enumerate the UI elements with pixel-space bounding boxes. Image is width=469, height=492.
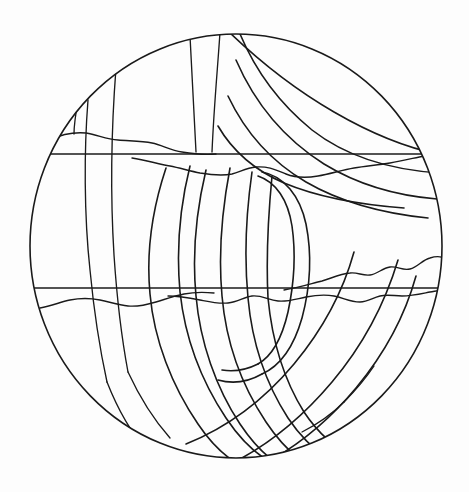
line-art-sphere-drawing (0, 0, 469, 492)
artwork-canvas: Black outline drawing of a sphere crosse… (0, 0, 469, 492)
